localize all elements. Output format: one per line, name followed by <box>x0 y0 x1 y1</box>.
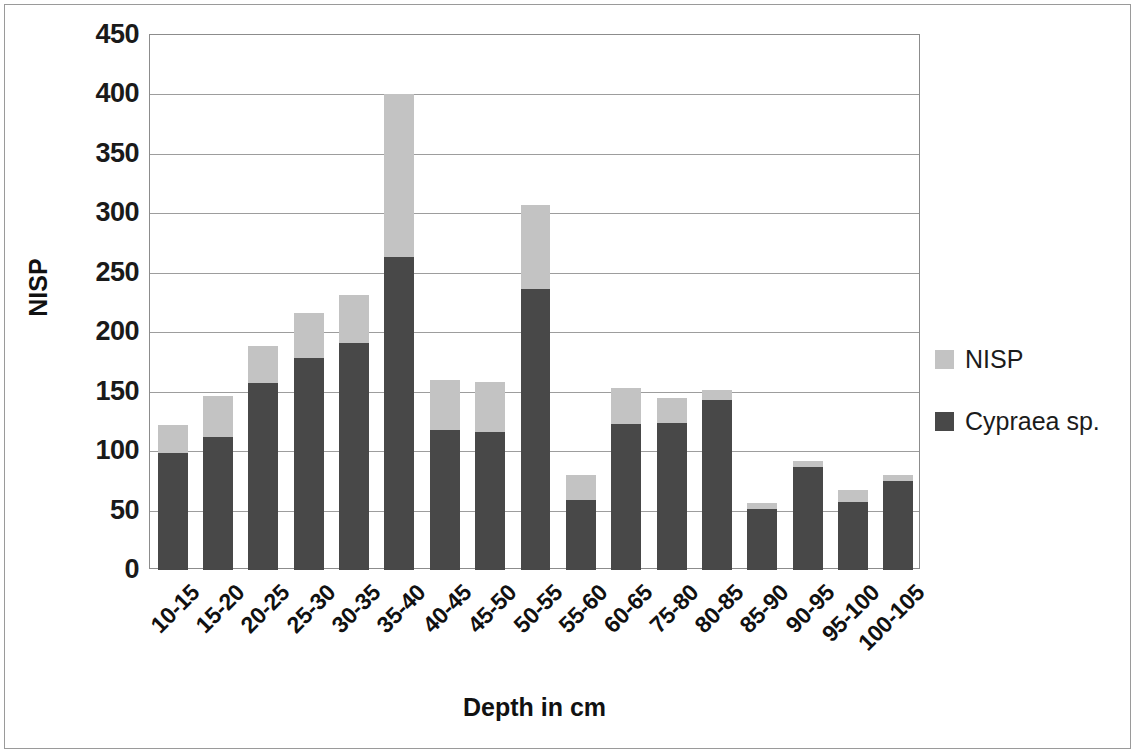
bar-column[interactable] <box>384 35 414 568</box>
bar-segment-nisp[interactable] <box>566 475 596 500</box>
bar-segment-cypraea[interactable] <box>883 481 913 570</box>
x-axis-tick-labels: 10-1515-2020-2525-3030-3535-4040-4545-50… <box>149 571 920 691</box>
bar-segment-nisp[interactable] <box>657 398 687 423</box>
bar-column[interactable] <box>838 35 868 568</box>
bar-segment-cypraea[interactable] <box>430 430 460 570</box>
bar-column[interactable] <box>702 35 732 568</box>
bar-segment-nisp[interactable] <box>611 388 641 424</box>
y-tick-label: 200 <box>19 318 139 345</box>
bar-column[interactable] <box>475 35 505 568</box>
y-tick-label: 50 <box>19 496 139 523</box>
y-tick-label: 0 <box>19 556 139 583</box>
x-tick-label: 25-30 <box>281 579 341 639</box>
bar-segment-cypraea[interactable] <box>339 343 369 570</box>
bar-column[interactable] <box>793 35 823 568</box>
bar-column[interactable] <box>611 35 641 568</box>
bar-segment-cypraea[interactable] <box>248 383 278 570</box>
y-tick-label: 400 <box>19 80 139 107</box>
bar-column[interactable] <box>339 35 369 568</box>
bar-segment-cypraea[interactable] <box>158 453 188 570</box>
y-tick-label: 250 <box>19 258 139 285</box>
bar-column[interactable] <box>747 35 777 568</box>
bar-segment-cypraea[interactable] <box>475 432 505 570</box>
bar-segment-nisp[interactable] <box>384 94 414 257</box>
bar-segment-cypraea[interactable] <box>702 400 732 570</box>
bar-column[interactable] <box>248 35 278 568</box>
legend-item[interactable]: NISP <box>935 345 1125 373</box>
x-tick-label: 20-25 <box>236 579 296 639</box>
bar-segment-nisp[interactable] <box>294 313 324 358</box>
y-tick-label: 100 <box>19 437 139 464</box>
bar-column[interactable] <box>566 35 596 568</box>
bar-segment-nisp[interactable] <box>158 425 188 454</box>
chart-legend: NISPCypraea sp. <box>935 345 1125 469</box>
bar-column[interactable] <box>203 35 233 568</box>
y-tick-label: 350 <box>19 139 139 166</box>
plot-area <box>149 34 920 569</box>
legend-label: NISP <box>965 345 1023 374</box>
x-tick-label: 55-60 <box>553 579 613 639</box>
x-tick-label: 80-85 <box>689 579 749 639</box>
bar-column[interactable] <box>657 35 687 568</box>
bar-column[interactable] <box>521 35 551 568</box>
bar-segment-nisp[interactable] <box>475 382 505 432</box>
bar-segment-cypraea[interactable] <box>521 289 551 570</box>
legend-item[interactable]: Cypraea sp. <box>935 407 1125 435</box>
y-tick-label: 150 <box>19 377 139 404</box>
bar-column[interactable] <box>158 35 188 568</box>
x-tick-label: 15-20 <box>190 579 250 639</box>
bar-segment-nisp[interactable] <box>430 380 460 430</box>
bar-segment-cypraea[interactable] <box>294 358 324 570</box>
bar-segment-nisp[interactable] <box>203 396 233 436</box>
bar-segment-nisp[interactable] <box>838 490 868 502</box>
bar-segment-cypraea[interactable] <box>203 437 233 570</box>
x-tick-label: 35-40 <box>372 579 432 639</box>
x-tick-label: 60-65 <box>599 579 659 639</box>
chart-frame: NISP 050100150200250300350400450 10-1515… <box>4 4 1131 749</box>
legend-swatch-icon <box>935 350 954 369</box>
y-axis-tick-labels: 050100150200250300350400450 <box>5 34 139 569</box>
bar-column[interactable] <box>430 35 460 568</box>
x-tick-label: 10-15 <box>145 579 205 639</box>
bar-segment-nisp[interactable] <box>248 346 278 383</box>
bar-segment-cypraea[interactable] <box>747 509 777 570</box>
x-tick-label: 45-50 <box>463 579 523 639</box>
bar-segment-cypraea[interactable] <box>793 467 823 570</box>
legend-swatch-icon <box>935 412 954 431</box>
x-tick-label: 40-45 <box>417 579 477 639</box>
y-tick-label: 300 <box>19 199 139 226</box>
stacked-bar-chart: NISP 050100150200250300350400450 10-1515… <box>5 5 1132 750</box>
bar-segment-nisp[interactable] <box>702 390 732 400</box>
bar-segment-cypraea[interactable] <box>566 500 596 570</box>
bar-segment-nisp[interactable] <box>521 205 551 289</box>
bar-segment-nisp[interactable] <box>339 295 369 343</box>
bar-segment-cypraea[interactable] <box>611 424 641 570</box>
bar-segment-cypraea[interactable] <box>384 257 414 570</box>
x-axis-title: Depth in cm <box>149 693 920 722</box>
bar-segment-cypraea[interactable] <box>657 423 687 570</box>
bar-column[interactable] <box>294 35 324 568</box>
bar-segment-cypraea[interactable] <box>838 502 868 570</box>
legend-label: Cypraea sp. <box>965 407 1100 436</box>
x-tick-label: 50-55 <box>508 579 568 639</box>
y-tick-label: 450 <box>19 21 139 48</box>
x-tick-label: 75-80 <box>644 579 704 639</box>
x-tick-label: 30-35 <box>327 579 387 639</box>
bar-column[interactable] <box>883 35 913 568</box>
x-tick-label: 85-90 <box>735 579 795 639</box>
